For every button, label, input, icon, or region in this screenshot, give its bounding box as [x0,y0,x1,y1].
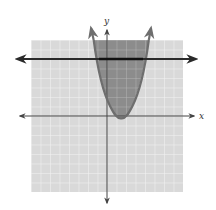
parabola-arrow-right [149,28,151,40]
graph-figure: x y [0,0,216,210]
parabola-arrow-left [91,28,94,40]
y-axis-label: y [103,16,110,26]
x-axis-label: x [199,111,204,121]
